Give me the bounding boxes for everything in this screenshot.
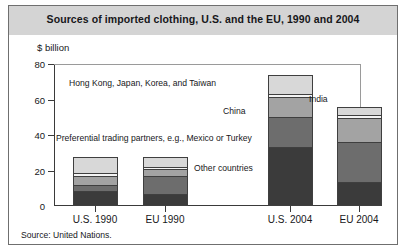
chart-title: Sources of imported clothing, U.S. and t… bbox=[9, 13, 397, 25]
bar-segment-hong-kong-japan-korea-and-taiwan bbox=[269, 76, 312, 94]
bar-segment-china bbox=[74, 176, 117, 185]
bar-u-s-2004[interactable] bbox=[268, 75, 313, 206]
bar-u-s-1990[interactable] bbox=[73, 157, 118, 206]
y-tick-label-0: 0 bbox=[5, 201, 45, 212]
bar-segment-china bbox=[269, 97, 312, 117]
bar-segment-other-countries bbox=[269, 147, 312, 205]
annotation-india: India bbox=[309, 94, 328, 104]
bar-segment-hong-kong-japan-korea-and-taiwan bbox=[74, 158, 117, 173]
chart-figure: Sources of imported clothing, U.S. and t… bbox=[8, 5, 398, 245]
x-tick-mark-0 bbox=[95, 206, 96, 212]
bar-segment-other-countries bbox=[74, 191, 117, 205]
y-tick-mark-60 bbox=[48, 100, 54, 101]
bar-segment-other-countries bbox=[144, 194, 187, 205]
bar-segment-preferential-trading-partners-e-g-mexico-or-turkey bbox=[74, 185, 117, 192]
bar-segment-preferential-trading-partners-e-g-mexico-or-turkey bbox=[269, 117, 312, 148]
y-tick-label-40: 40 bbox=[5, 130, 45, 141]
x-tick-mark-2 bbox=[290, 206, 291, 212]
y-axis-unit-label: $ billion bbox=[37, 42, 69, 53]
x-axis-label-eu-1990: EU 1990 bbox=[120, 214, 210, 225]
source-note: Source: United Nations. bbox=[21, 230, 112, 240]
annotation-other-countries: Other countries bbox=[194, 163, 253, 173]
bar-segment-other-countries bbox=[338, 182, 381, 205]
bar-eu-1990[interactable] bbox=[143, 157, 188, 206]
y-tick-label-60: 60 bbox=[5, 94, 45, 105]
y-tick-mark-40 bbox=[48, 135, 54, 136]
y-tick-label-20: 20 bbox=[5, 165, 45, 176]
bar-segment-hong-kong-japan-korea-and-taiwan bbox=[144, 158, 187, 166]
bar-segment-preferential-trading-partners-e-g-mexico-or-turkey bbox=[144, 176, 187, 194]
bar-eu-2004[interactable] bbox=[337, 107, 382, 206]
x-tick-mark-3 bbox=[359, 206, 360, 212]
annotation-top-group: Hong Kong, Japan, Korea, and Taiwan bbox=[69, 78, 216, 88]
annotation-preferential: Preferential trading partners, e.g., Mex… bbox=[56, 133, 252, 143]
y-tick-label-80: 80 bbox=[5, 59, 45, 70]
bar-segment-china bbox=[338, 118, 381, 142]
x-axis-label-eu-2004: EU 2004 bbox=[314, 214, 404, 225]
x-tick-mark-1 bbox=[165, 206, 166, 212]
bar-segment-hong-kong-japan-korea-and-taiwan bbox=[338, 108, 381, 116]
y-tick-mark-80 bbox=[48, 64, 54, 65]
annotation-china: China bbox=[223, 106, 245, 116]
y-tick-mark-20 bbox=[48, 171, 54, 172]
bar-segment-china bbox=[144, 169, 187, 176]
bar-segment-preferential-trading-partners-e-g-mexico-or-turkey bbox=[338, 142, 381, 181]
